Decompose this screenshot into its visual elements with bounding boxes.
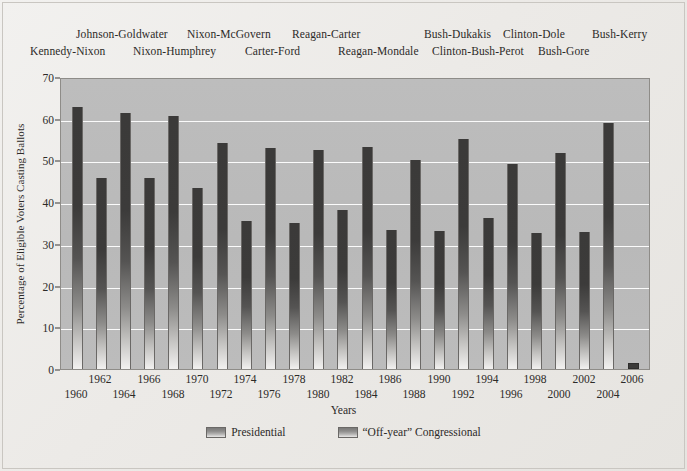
y-axis-tick-label: 10 [28, 322, 54, 334]
y-axis-tick-label: 0 [28, 364, 54, 376]
legend-swatch-icon [338, 427, 358, 438]
legend-item-presidential: Presidential [206, 426, 285, 438]
bar-slot [186, 79, 210, 369]
election-label: Kennedy-Nixon [30, 45, 105, 57]
legend-swatch-icon [206, 427, 226, 438]
election-label: Bush-Kerry [592, 28, 647, 40]
x-axis-tick-label: 1998 [524, 373, 547, 385]
bar-presidential [265, 148, 276, 370]
bar-off-year-congressional [628, 363, 639, 369]
election-label: Nixon-McGovern [187, 28, 271, 40]
x-axis-tick-label: 1962 [89, 373, 112, 385]
y-axis-tick-label: 40 [28, 197, 54, 209]
bar-slot [597, 79, 621, 369]
x-axis-tick-label: 1960 [65, 388, 88, 400]
x-axis-tick-label: 2000 [548, 388, 571, 400]
bar-slot [113, 79, 137, 369]
bar-slot [379, 79, 403, 369]
x-axis-tick-label: 1980 [307, 388, 330, 400]
x-axis-tick-label: 1986 [379, 373, 402, 385]
bar-presidential [603, 123, 614, 369]
bar-slot [476, 79, 500, 369]
y-axis-title: Percentage of Eligible Voters Casting Ba… [14, 78, 30, 370]
bar-off-year-congressional [192, 188, 203, 369]
chart-legend: Presidential “Off-year” Congressional [0, 426, 687, 438]
plot-area [60, 78, 650, 370]
bar-slot [452, 79, 476, 369]
election-label: Clinton-Dole [503, 28, 565, 40]
election-label: Clinton-Bush-Perot [432, 45, 524, 57]
bar-slot [162, 79, 186, 369]
election-label: Carter-Ford [245, 45, 300, 57]
bar-slot [234, 79, 258, 369]
x-axis-tick-label: 1964 [113, 388, 136, 400]
bar-off-year-congressional [96, 178, 107, 369]
bar-off-year-congressional [289, 223, 300, 369]
bar-off-year-congressional [144, 178, 155, 369]
bar-presidential [168, 116, 179, 369]
x-axis-tick-label: 1968 [162, 388, 185, 400]
election-label: Johnson-Goldwater [76, 28, 168, 40]
x-axis-tick-labels: 1960196219641966196819701972197419761978… [60, 372, 650, 404]
bar-presidential [120, 113, 131, 369]
election-label: Reagan-Carter [292, 28, 360, 40]
y-axis-tick-label: 50 [28, 155, 54, 167]
bar-series-container [61, 79, 649, 369]
x-axis-tick-label: 1966 [138, 373, 161, 385]
election-label: Bush-Dukakis [424, 28, 491, 40]
bar-presidential [362, 147, 373, 369]
bar-off-year-congressional [483, 218, 494, 369]
y-axis-tick-label: 70 [28, 72, 54, 84]
bar-slot [138, 79, 162, 369]
x-axis-tick-label: 1992 [452, 388, 475, 400]
bar-off-year-congressional [434, 231, 445, 369]
bar-presidential [410, 160, 421, 369]
bar-presidential [217, 143, 228, 370]
bar-slot [307, 79, 331, 369]
x-axis-tick-label: 1982 [331, 373, 354, 385]
bar-off-year-congressional [531, 233, 542, 369]
x-axis-tick-label: 1994 [476, 373, 499, 385]
x-axis-tick-label: 2004 [597, 388, 620, 400]
bar-slot [355, 79, 379, 369]
y-axis-tick-label: 30 [28, 239, 54, 251]
x-axis-tick-label: 1974 [234, 373, 257, 385]
bar-slot [403, 79, 427, 369]
bar-slot [500, 79, 524, 369]
x-axis-tick-label: 1970 [186, 373, 209, 385]
x-axis-title: Years [0, 404, 687, 416]
y-axis-tick-label: 20 [28, 281, 54, 293]
x-axis-tick-label: 2002 [573, 373, 596, 385]
bar-presidential [555, 153, 566, 369]
bar-slot [548, 79, 572, 369]
bar-presidential [458, 139, 469, 369]
bar-slot [210, 79, 234, 369]
bar-slot [258, 79, 282, 369]
bar-slot [621, 79, 645, 369]
bar-presidential [507, 164, 518, 369]
x-axis-tick-label: 1988 [403, 388, 426, 400]
bar-presidential [72, 107, 83, 369]
bar-off-year-congressional [241, 221, 252, 370]
x-axis-tick-label: 1976 [258, 388, 281, 400]
bar-slot [428, 79, 452, 369]
bar-off-year-congressional [386, 230, 397, 369]
bar-slot [573, 79, 597, 369]
election-label: Nixon-Humphrey [133, 45, 216, 57]
election-label: Bush-Gore [538, 45, 589, 57]
bar-slot [524, 79, 548, 369]
x-axis-tick-label: 1996 [500, 388, 523, 400]
x-axis-tick-label: 1984 [355, 388, 378, 400]
bar-presidential [313, 150, 324, 369]
legend-label: “Off-year” Congressional [363, 426, 481, 438]
bar-slot [65, 79, 89, 369]
legend-label: Presidential [231, 426, 285, 438]
bar-off-year-congressional [579, 232, 590, 369]
election-label: Reagan-Mondale [338, 45, 419, 57]
bar-slot [283, 79, 307, 369]
legend-item-off-year-congressional: “Off-year” Congressional [338, 426, 481, 438]
x-axis-tick-label: 1972 [210, 388, 233, 400]
y-axis-tick-label: 60 [28, 114, 54, 126]
x-axis-tick-label: 2006 [621, 373, 644, 385]
bar-off-year-congressional [337, 210, 348, 369]
